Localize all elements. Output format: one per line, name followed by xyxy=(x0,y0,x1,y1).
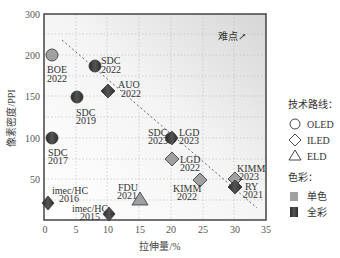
chart: 难点↗ 300 200 150 100 50 0 5 10 15 20 25 3… xyxy=(0,0,340,258)
svg-text:0: 0 xyxy=(43,224,48,235)
svg-text:35: 35 xyxy=(261,224,271,235)
svg-text:30: 30 xyxy=(230,224,240,235)
legend-full-swatch-icon xyxy=(290,207,298,217)
svg-text:2023: 2023 xyxy=(179,135,199,146)
svg-text:2022: 2022 xyxy=(180,162,200,173)
svg-text:2021: 2021 xyxy=(117,190,137,201)
svg-text:20: 20 xyxy=(166,224,176,235)
point-sdc-2022 xyxy=(89,60,101,72)
svg-text:2022: 2022 xyxy=(121,88,141,99)
svg-text:ELD: ELD xyxy=(307,151,326,162)
svg-text:10: 10 xyxy=(103,224,113,235)
svg-text:ILED: ILED xyxy=(307,135,330,146)
svg-text:2022: 2022 xyxy=(177,191,197,202)
svg-text:2015: 2015 xyxy=(80,211,100,222)
legend-color-title: 色彩： xyxy=(288,171,318,183)
point-boe-2022 xyxy=(46,49,58,61)
svg-text:100: 100 xyxy=(25,133,40,144)
legend-circle-icon xyxy=(290,119,300,129)
y-axis-title: 像素密度/PPI xyxy=(5,89,17,146)
svg-text:50: 50 xyxy=(30,174,40,185)
svg-text:2017: 2017 xyxy=(48,155,68,166)
svg-text:OLED: OLED xyxy=(307,119,334,130)
svg-text:15: 15 xyxy=(135,224,145,235)
legend: 技术路线： OLED ILED ELD 色彩： 单色 全彩 xyxy=(288,98,338,218)
x-ticks: 0 5 10 15 20 25 30 35 xyxy=(43,224,272,235)
difficulty-annotation: 难点↗ xyxy=(218,31,246,42)
svg-text:5: 5 xyxy=(74,224,79,235)
svg-text:单色: 单色 xyxy=(307,190,327,202)
svg-text:2023: 2023 xyxy=(148,135,168,146)
svg-text:25: 25 xyxy=(198,224,208,235)
svg-text:2019: 2019 xyxy=(76,115,96,126)
legend-diamond-icon xyxy=(289,134,301,146)
legend-triangle-icon xyxy=(289,150,301,160)
svg-text:200: 200 xyxy=(25,50,40,61)
point-sdc-2017 xyxy=(46,132,58,144)
svg-text:150: 150 xyxy=(25,91,40,102)
x-axis-title: 拉伸量/% xyxy=(139,240,180,252)
legend-tech-title: 技术路线： xyxy=(288,98,338,110)
point-sdc-2019 xyxy=(71,91,83,103)
svg-text:全彩: 全彩 xyxy=(307,206,327,218)
svg-text:2022: 2022 xyxy=(47,73,67,84)
y-ticks: 300 200 150 100 50 xyxy=(25,9,40,185)
svg-text:300: 300 xyxy=(25,9,40,20)
svg-text:2022: 2022 xyxy=(101,64,121,75)
svg-text:2021: 2021 xyxy=(243,189,263,200)
legend-mono-swatch-icon xyxy=(290,192,298,201)
